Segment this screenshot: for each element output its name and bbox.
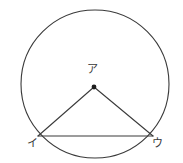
segment-center-to-right-vertex (94, 87, 153, 136)
vertex-label-right: ウ (152, 138, 163, 149)
geometry-figure: ア イ ウ (0, 0, 183, 163)
vertex-label-center: ア (87, 64, 98, 75)
segment-center-to-left-vertex (38, 87, 94, 136)
vertex-label-left: イ (27, 138, 38, 149)
center-point-dot (92, 85, 97, 90)
